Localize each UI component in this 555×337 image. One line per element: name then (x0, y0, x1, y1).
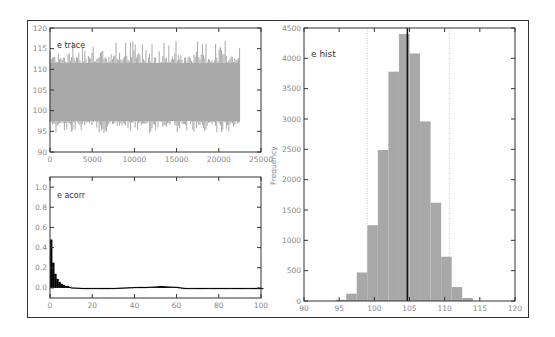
x-tick-label: 0 (48, 155, 53, 164)
acorr-bar (177, 287, 179, 288)
acorr-bar (65, 286, 67, 288)
acorr-bar (69, 287, 71, 288)
x-tick-label: 110 (438, 304, 453, 313)
acorr-bar (204, 288, 206, 289)
x-tick-label: 20000 (207, 155, 231, 164)
acorr-bar (172, 287, 174, 288)
acorr-bar (181, 288, 183, 289)
acorr-bar (200, 288, 202, 289)
acorr-bar (217, 288, 219, 289)
acorr-bar (130, 287, 132, 288)
acorr-bar (253, 288, 255, 289)
acorr-bar (67, 286, 69, 288)
hist-bar (431, 203, 442, 301)
x-tick-label: 10000 (122, 155, 146, 164)
acorr-plot-area (50, 240, 263, 290)
hist-ylabel: Frequency (269, 146, 278, 185)
acorr-bar (255, 288, 257, 289)
acorr-title: e acorr (57, 191, 86, 200)
trace-line (50, 41, 240, 133)
acorr-bar (212, 288, 214, 289)
acorr-bar (185, 288, 187, 289)
acorr-bar (215, 288, 217, 289)
acorr-bar (246, 288, 248, 289)
y-tick-label: 1500 (282, 206, 301, 215)
y-tick-label: 0.0 (35, 283, 47, 292)
acorr-bar (84, 288, 86, 289)
acorr-bar (80, 288, 82, 289)
y-tick-label: 0.6 (35, 223, 47, 232)
acorr-bar (160, 286, 162, 288)
y-tick-label: 1.0 (35, 183, 47, 192)
y-tick-label: 115 (33, 44, 48, 53)
acorr-bar (223, 288, 225, 289)
acorr-panel: 0204060801000.00.20.40.60.81.0 e acorr (35, 177, 268, 310)
acorr-bar (54, 274, 56, 288)
x-tick-label: 100 (254, 301, 269, 310)
y-tick-label: 0.4 (35, 243, 47, 252)
acorr-bar (234, 288, 236, 289)
acorr-bar (86, 288, 88, 289)
acorr-bar (189, 288, 191, 289)
acorr-bar (174, 287, 176, 288)
trace-plot-area (50, 41, 240, 133)
x-tick-label: 105 (402, 304, 417, 313)
acorr-bar (170, 287, 172, 288)
acorr-bar (221, 288, 223, 289)
hist-title: e hist (311, 49, 336, 59)
acorr-bar (206, 288, 208, 289)
hist-bar (420, 121, 431, 301)
acorr-bar (193, 288, 195, 289)
acorr-bar (132, 287, 134, 288)
acorr-bar (191, 288, 193, 289)
acorr-bar (103, 288, 105, 289)
x-tick-label: 115 (473, 304, 488, 313)
acorr-bar (126, 287, 128, 288)
acorr-bar (115, 288, 117, 289)
acorr-bar (90, 288, 92, 289)
acorr-bar (151, 287, 153, 288)
acorr-bar (162, 286, 164, 288)
y-tick-label: 4500 (282, 24, 301, 33)
acorr-bar (88, 288, 90, 289)
y-tick-label: 0.2 (35, 263, 47, 272)
hist-bar (441, 257, 452, 301)
acorr-bar (183, 288, 185, 289)
y-tick-label: 90 (37, 148, 47, 157)
y-tick-label: 2500 (282, 145, 301, 154)
acorr-bar (145, 287, 147, 288)
acorr-bar (101, 288, 103, 289)
acorr-bar (153, 287, 155, 288)
acorr-bar (250, 288, 252, 289)
hist-bar (410, 53, 421, 301)
y-tick-label: 2000 (282, 175, 301, 184)
acorr-bar (107, 288, 109, 289)
acorr-bar (219, 288, 221, 289)
x-tick-label: 100 (367, 304, 382, 313)
y-tick-label: 120 (33, 24, 48, 33)
acorr-bar (63, 285, 65, 288)
acorr-bar (118, 288, 120, 289)
acorr-bar (225, 288, 227, 289)
acorr-bar (158, 286, 160, 288)
acorr-bar (202, 288, 204, 289)
acorr-bar (242, 288, 244, 289)
acorr-bar (179, 287, 181, 288)
hist-bar (367, 225, 378, 301)
acorr-bar (208, 288, 210, 289)
acorr-bar (210, 288, 212, 289)
x-tick-label: 95 (334, 304, 344, 313)
y-tick-label: 100 (33, 106, 48, 115)
acorr-bar (109, 288, 111, 289)
x-tick-label: 15000 (165, 155, 189, 164)
hist-panel: 9095100105110115120050010001500200025003… (269, 24, 522, 314)
hist-plot-area (336, 28, 473, 301)
y-tick-label: 3000 (282, 115, 301, 124)
y-tick-label: 0 (296, 297, 301, 306)
acorr-bar (71, 287, 73, 288)
acorr-bar (124, 287, 126, 288)
hist-bar (346, 294, 357, 301)
acorr-bar (198, 288, 200, 289)
x-tick-label: 80 (214, 301, 224, 310)
acorr-bar (73, 288, 75, 289)
